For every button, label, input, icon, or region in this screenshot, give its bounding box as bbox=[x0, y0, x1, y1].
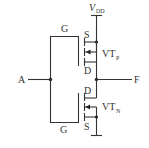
pmos-gate-label: G bbox=[61, 23, 68, 34]
pmos-drain-label: D bbox=[84, 65, 91, 76]
arrow-icon bbox=[86, 105, 91, 110]
nmos-subscript: N bbox=[116, 108, 121, 114]
pmos-label: VT bbox=[102, 48, 115, 59]
vdd-subscript: DD bbox=[96, 8, 105, 14]
cmos-inverter-diagram: V DD S D VT P F bbox=[0, 0, 149, 148]
input-label: A bbox=[18, 74, 26, 85]
nmos-drain-label: D bbox=[84, 85, 91, 96]
pmos-subscript: P bbox=[116, 55, 120, 61]
nmos-gate-label: G bbox=[60, 124, 67, 135]
gate-wiring bbox=[28, 37, 79, 123]
output-node bbox=[95, 78, 132, 81]
pmos-source-label: S bbox=[84, 29, 90, 40]
arrow-icon bbox=[86, 50, 91, 55]
schematic: V DD S D VT P F bbox=[0, 0, 149, 148]
nmos-label: VT bbox=[102, 101, 115, 112]
pmos-transistor bbox=[79, 38, 99, 66]
nmos-source-label: S bbox=[84, 121, 90, 132]
output-label: F bbox=[134, 74, 140, 85]
